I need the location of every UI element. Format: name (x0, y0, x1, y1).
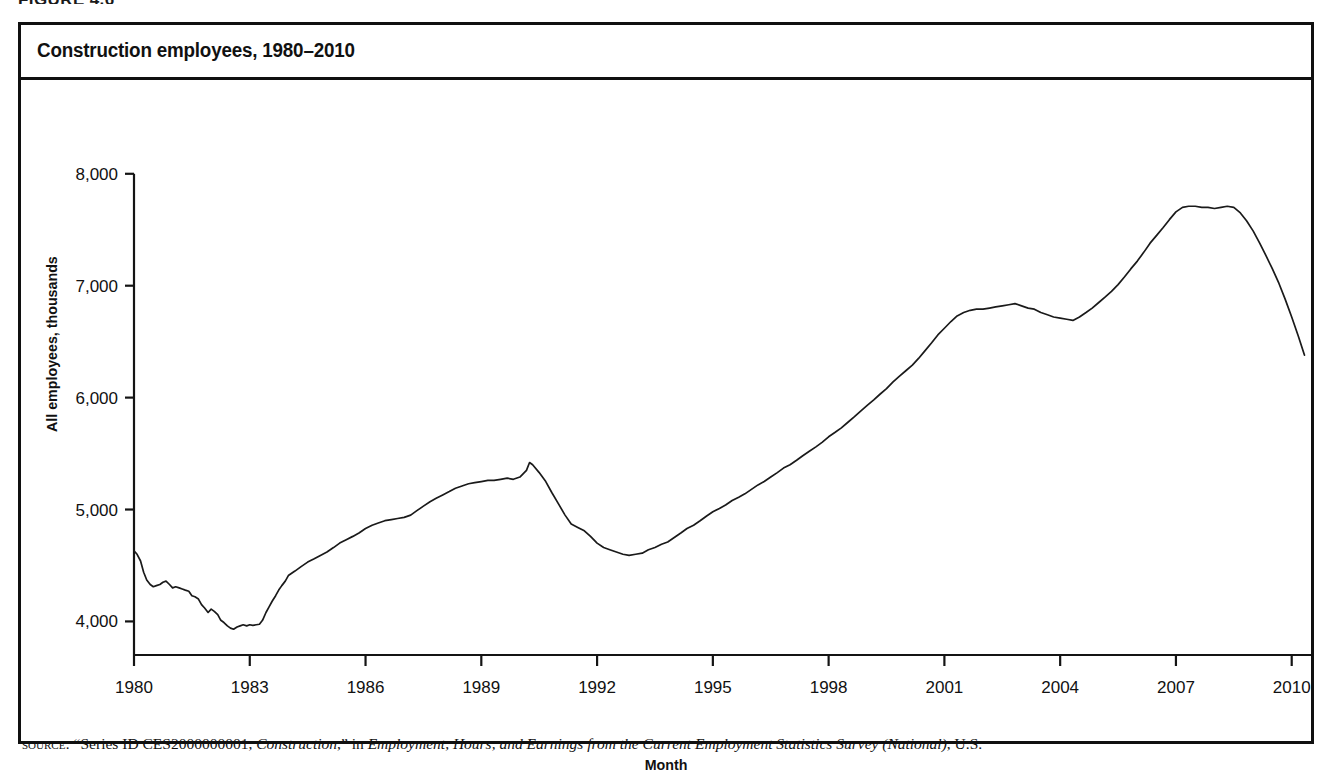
x-tick-label: 2010 (1273, 678, 1311, 697)
x-tick-label: 1998 (810, 678, 848, 697)
source-prefix: “Series ID CES2000000001, (70, 735, 256, 752)
figure-number: FIGURE 4.6 (18, 0, 115, 4)
x-tick-label: 1983 (231, 678, 269, 697)
x-tick-label: 1992 (578, 678, 616, 697)
x-tick-label: 1995 (694, 678, 732, 697)
series-line (134, 206, 1304, 629)
y-tick-label: 6,000 (75, 389, 118, 408)
data-series (134, 206, 1304, 629)
source-suffix: , U.S. (947, 735, 982, 752)
source-italic-pub: Employment, Hours, and Earnings from the… (368, 735, 947, 752)
y-axis-title: All employees, thousands (43, 261, 60, 432)
x-tick-label: 1989 (462, 678, 500, 697)
plot-area: 4,0005,0006,0007,0008,000 19801983198619… (21, 80, 1311, 744)
axes (125, 174, 1311, 666)
source-italic-series: Construction (256, 735, 337, 752)
x-tick-label: 2004 (1041, 678, 1079, 697)
chart-title: Construction employees, 1980–2010 (37, 39, 355, 62)
y-tick-label: 8,000 (75, 165, 118, 184)
figure-box: Construction employees, 1980–2010 4,0005… (18, 22, 1314, 744)
x-tick-label: 1980 (115, 678, 153, 697)
y-axis-tick-labels: 4,0005,0006,0007,0008,000 (75, 165, 118, 632)
x-tick-label: 2001 (925, 678, 963, 697)
source-note: source: “Series ID CES2000000001, Constr… (22, 735, 1312, 763)
source-mid: ,” in (337, 735, 368, 752)
y-tick-label: 4,000 (75, 612, 118, 631)
x-axis-tick-labels: 1980198319861989199219951998200120042007… (115, 678, 1311, 697)
line-chart: 4,0005,0006,0007,0008,000 19801983198619… (21, 80, 1311, 744)
x-tick-label: 2007 (1157, 678, 1195, 697)
source-label: source: (22, 735, 70, 752)
y-tick-label: 5,000 (75, 501, 118, 520)
y-tick-label: 7,000 (75, 277, 118, 296)
x-tick-label: 1986 (347, 678, 385, 697)
